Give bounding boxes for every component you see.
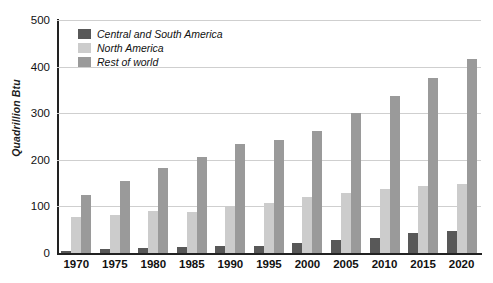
bar xyxy=(351,113,361,253)
bar xyxy=(457,184,467,253)
bar-group xyxy=(331,20,361,253)
bar xyxy=(274,140,284,253)
bar xyxy=(215,246,225,253)
bar-chart: Quadrillion Btu 0100200300400500 1970197… xyxy=(0,0,493,283)
bar xyxy=(235,144,245,253)
bar xyxy=(312,131,322,253)
x-axis-tick-label: 2010 xyxy=(368,258,402,270)
bar xyxy=(390,96,400,253)
x-axis-tick-label: 1990 xyxy=(213,258,247,270)
bar-group xyxy=(447,20,477,253)
bar xyxy=(61,251,71,253)
bar xyxy=(418,186,428,253)
legend-item: Central and South America xyxy=(78,27,223,40)
bar-group xyxy=(370,20,400,253)
bar xyxy=(120,181,130,253)
bar xyxy=(341,193,351,253)
y-axis-title: Quadrillion Btu xyxy=(10,48,22,188)
y-axis-tick-label: 300 xyxy=(31,107,50,119)
bar xyxy=(225,206,235,253)
grid-line xyxy=(57,253,481,254)
x-axis-tick-label: 1970 xyxy=(59,258,93,270)
legend-label: Central and South America xyxy=(97,28,223,40)
bar xyxy=(197,157,207,253)
legend-label: North America xyxy=(97,42,164,54)
bar xyxy=(110,215,120,253)
bar-group xyxy=(408,20,438,253)
x-axis-tick-label: 2005 xyxy=(329,258,363,270)
bar xyxy=(467,59,477,253)
y-axis-tick-label: 100 xyxy=(31,200,50,212)
bar xyxy=(148,211,158,253)
y-axis-tick-label: 0 xyxy=(44,247,50,259)
x-axis-tick-label: 1980 xyxy=(136,258,170,270)
bar-group xyxy=(292,20,322,253)
y-axis-tick-label: 500 xyxy=(31,14,50,26)
x-axis-tick-label: 1995 xyxy=(252,258,286,270)
bar xyxy=(187,212,197,253)
x-axis-tick-label: 2020 xyxy=(445,258,479,270)
y-axis-tick-label: 200 xyxy=(31,154,50,166)
bar xyxy=(71,217,81,253)
bar xyxy=(264,203,274,253)
x-axis-tick-label: 2015 xyxy=(406,258,440,270)
bar xyxy=(100,249,110,253)
bar xyxy=(177,247,187,253)
bar xyxy=(158,168,168,253)
bar xyxy=(292,243,302,253)
legend-swatch-icon xyxy=(78,29,91,39)
bar xyxy=(81,195,91,253)
legend-label: Rest of world xyxy=(97,56,158,68)
bar xyxy=(447,231,457,253)
x-axis-tick-label: 1975 xyxy=(98,258,132,270)
bar xyxy=(302,197,312,253)
legend-item: North America xyxy=(78,41,223,54)
bar xyxy=(138,248,148,253)
legend-item: Rest of world xyxy=(78,55,223,68)
bar xyxy=(370,238,380,253)
y-axis-tick-label: 400 xyxy=(31,61,50,73)
bar xyxy=(428,78,438,253)
x-axis-tick-labels: 1970197519801985199019952000200520102015… xyxy=(57,258,481,270)
bar xyxy=(408,233,418,253)
x-axis-tick-label: 1985 xyxy=(175,258,209,270)
legend-swatch-icon xyxy=(78,57,91,67)
bar xyxy=(380,189,390,253)
legend-swatch-icon xyxy=(78,43,91,53)
bar xyxy=(254,246,264,253)
bar xyxy=(331,240,341,253)
x-axis-tick-label: 2000 xyxy=(290,258,324,270)
bar-group xyxy=(254,20,284,253)
chart-legend: Central and South America North America … xyxy=(78,27,223,68)
